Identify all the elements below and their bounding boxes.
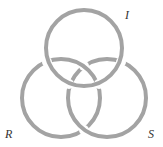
label-real: R <box>5 128 12 140</box>
ring-r <box>22 59 100 137</box>
borromean-rings-diagram <box>0 0 163 147</box>
ring-i <box>46 10 122 86</box>
label-imaginary: I <box>125 9 129 21</box>
ring-s <box>68 59 146 137</box>
label-symbolic: S <box>148 128 154 140</box>
